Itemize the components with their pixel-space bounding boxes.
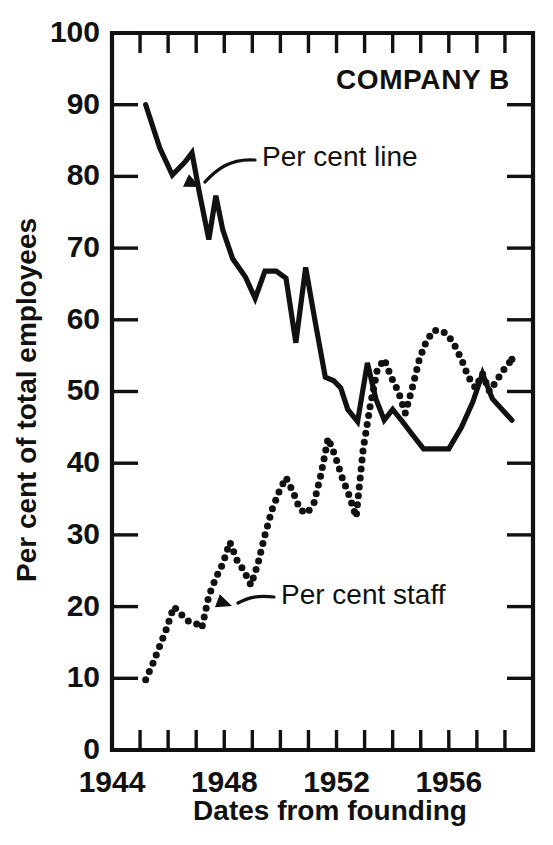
x-tick-label: 1948 (191, 765, 258, 798)
y-tick-label: 50 (67, 373, 100, 406)
y-tick-label: 60 (67, 302, 100, 335)
x-tick-label: 1952 (303, 765, 370, 798)
y-tick-label: 40 (67, 445, 100, 478)
x-tick-label: 1956 (415, 765, 482, 798)
y-tick-label: 0 (83, 732, 100, 765)
y-tick-label: 100 (50, 15, 100, 48)
y-tick-label: 90 (67, 87, 100, 120)
chart-figure: 0102030405060708090100 1944194819521956 … (0, 0, 553, 845)
annotation-label: Per cent line (262, 141, 418, 172)
x-tick-label: 1944 (79, 765, 146, 798)
annotation-label: Per cent staff (281, 579, 446, 610)
x-axis-title: Dates from founding (193, 795, 467, 826)
plot-title: COMPANY B (336, 64, 510, 95)
y-tick-label: 70 (67, 230, 100, 263)
y-tick-label: 80 (67, 158, 100, 191)
chart-background (0, 0, 553, 845)
y-axis-title: Per cent of total employees (11, 218, 42, 582)
y-tick-label: 10 (67, 660, 100, 693)
y-tick-label: 20 (67, 589, 100, 622)
company-b-line-chart: 0102030405060708090100 1944194819521956 … (0, 0, 553, 845)
y-tick-label: 30 (67, 517, 100, 550)
